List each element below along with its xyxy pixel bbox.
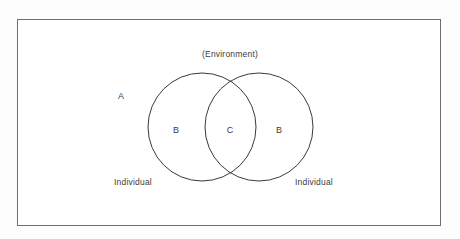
label-individual-left: Individual	[114, 178, 152, 187]
figure-root: (Environment) A B C B Individual Individ…	[0, 0, 460, 239]
label-environment: (Environment)	[202, 50, 258, 59]
venn-circle-right	[205, 73, 313, 181]
venn-diagram-graphic	[0, 0, 460, 239]
label-region-c: C	[227, 126, 234, 135]
label-region-a: A	[118, 92, 124, 101]
label-individual-right: Individual	[295, 178, 333, 187]
venn-circle-left	[148, 73, 256, 181]
label-region-b-right: B	[276, 126, 282, 135]
label-region-b-left: B	[173, 126, 179, 135]
